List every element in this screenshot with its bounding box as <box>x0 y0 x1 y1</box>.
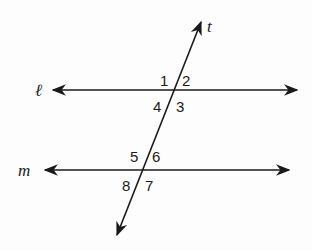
label-t: t <box>207 17 213 36</box>
angle-2: 2 <box>182 72 190 89</box>
angle-6: 6 <box>152 148 160 165</box>
angle-8: 8 <box>122 177 130 194</box>
angle-3: 3 <box>176 98 184 115</box>
label-m: m <box>18 161 30 180</box>
label-l: ℓ <box>35 81 42 100</box>
line-t <box>117 22 201 235</box>
angle-4: 4 <box>153 98 161 115</box>
diagram-canvas: ℓ m t 1 2 4 3 5 6 8 7 <box>0 0 312 251</box>
diagram-svg: ℓ m t 1 2 4 3 5 6 8 7 <box>0 0 312 251</box>
angle-1: 1 <box>160 72 168 89</box>
angle-5: 5 <box>130 148 138 165</box>
angle-7: 7 <box>145 177 153 194</box>
